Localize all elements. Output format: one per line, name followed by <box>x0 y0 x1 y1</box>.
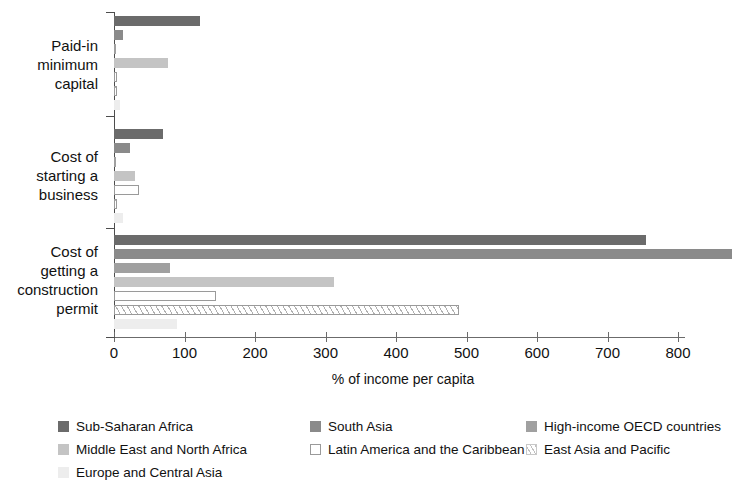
x-tick-label: 500 <box>454 344 479 361</box>
category-label: Paid-in minimum capital <box>0 36 98 93</box>
bar <box>114 171 135 181</box>
bar <box>114 277 334 287</box>
x-tick-label: 200 <box>242 344 267 361</box>
legend-swatch-icon <box>526 444 537 455</box>
x-axis-line <box>114 337 685 338</box>
legend-item[interactable]: Latin America and the Caribbean <box>310 442 525 457</box>
bar <box>114 30 123 40</box>
x-tick-label: 800 <box>665 344 690 361</box>
legend-row: Middle East and North AfricaLatin Americ… <box>58 442 736 465</box>
y-group-tick <box>106 337 115 338</box>
legend-item[interactable]: South Asia <box>310 419 393 434</box>
legend-label: South Asia <box>328 419 393 434</box>
legend-label: Sub-Saharan Africa <box>76 419 193 434</box>
bar <box>114 235 646 245</box>
legend-label: Middle East and North Africa <box>76 442 247 457</box>
category-label: Cost of getting a construction permit <box>0 242 98 318</box>
x-tick-label: 300 <box>313 344 338 361</box>
legend-label: High-income OECD countries <box>544 419 721 434</box>
legend-item[interactable]: Sub-Saharan Africa <box>58 419 193 434</box>
legend-swatch-icon <box>310 444 321 455</box>
legend-item[interactable]: Europe and Central Asia <box>58 465 222 480</box>
legend-row: Sub-Saharan AfricaSouth AsiaHigh-income … <box>58 419 736 442</box>
x-tick-label: 100 <box>172 344 197 361</box>
legend-swatch-icon <box>58 444 69 455</box>
legend-label: Latin America and the Caribbean <box>328 442 525 457</box>
legend-item[interactable]: High-income OECD countries <box>526 419 721 434</box>
x-tick-label: 0 <box>110 344 118 361</box>
bar <box>114 291 216 301</box>
bar <box>114 72 117 82</box>
x-tick-label: 700 <box>595 344 620 361</box>
bar <box>114 263 170 273</box>
bar <box>114 143 130 153</box>
bar <box>114 249 732 259</box>
legend-label: East Asia and Pacific <box>544 442 670 457</box>
x-tick-label: 400 <box>383 344 408 361</box>
bar <box>114 86 117 96</box>
legend-row: Europe and Central Asia <box>58 465 736 488</box>
category-label: Cost of starting a business <box>0 147 98 204</box>
x-tick-label: 600 <box>524 344 549 361</box>
bar <box>114 100 120 110</box>
bar <box>114 58 168 68</box>
bar <box>114 129 163 139</box>
legend: Sub-Saharan AfricaSouth AsiaHigh-income … <box>58 419 736 488</box>
legend-item[interactable]: Middle East and North Africa <box>58 442 247 457</box>
plot-area <box>114 12 736 335</box>
legend-swatch-icon <box>310 421 321 432</box>
bar <box>114 185 139 195</box>
bar <box>114 213 123 223</box>
bar-chart: Paid-in minimum capitalCost of starting … <box>0 0 736 491</box>
legend-swatch-icon <box>58 467 69 478</box>
legend-item[interactable]: East Asia and Pacific <box>526 442 670 457</box>
x-axis-title: % of income per capita <box>0 371 736 387</box>
legend-swatch-icon <box>526 421 537 432</box>
bar <box>114 305 459 315</box>
legend-label: Europe and Central Asia <box>76 465 222 480</box>
bar <box>114 44 116 54</box>
bar <box>114 199 117 209</box>
legend-swatch-icon <box>58 421 69 432</box>
bar <box>114 16 200 26</box>
bar <box>114 157 116 167</box>
bar <box>114 319 177 329</box>
